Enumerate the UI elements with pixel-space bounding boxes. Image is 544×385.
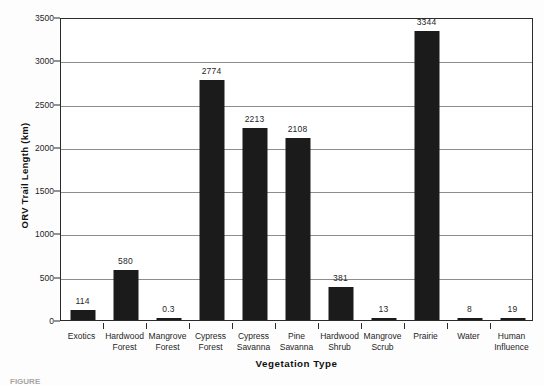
x-axis-title: Vegetation Type xyxy=(60,358,533,369)
x-tick-label: Prairie xyxy=(404,331,447,342)
plot-area: 1145800.3277422132108381133344819 xyxy=(60,18,533,321)
bar-value-label: 3344 xyxy=(417,17,437,27)
bar-group: 8 xyxy=(448,19,491,320)
x-tick-label: HumanInfluence xyxy=(490,331,533,352)
bar-value-label: 114 xyxy=(75,296,89,306)
y-tick-label: 2000 xyxy=(35,143,54,153)
x-tick-label: HardwoodForest xyxy=(103,331,146,352)
figure-caption: FIGURE xyxy=(10,377,40,385)
bar-group: 580 xyxy=(104,19,147,320)
x-tick-mark xyxy=(447,323,448,329)
bar xyxy=(113,270,138,320)
bar-group: 381 xyxy=(319,19,362,320)
x-tick-mark xyxy=(318,323,319,329)
bar-group: 3344 xyxy=(405,19,448,320)
x-tick-label: Exotics xyxy=(60,331,103,342)
y-tick-label: 3000 xyxy=(35,56,54,66)
bar xyxy=(328,287,353,320)
x-tick-mark xyxy=(232,323,233,329)
bar-group: 2774 xyxy=(190,19,233,320)
bar xyxy=(199,80,224,320)
x-tick-mark xyxy=(103,323,104,329)
y-tick-label: 2500 xyxy=(35,100,54,110)
bars-layer: 1145800.3277422132108381133344819 xyxy=(61,19,532,320)
bar-value-label: 2213 xyxy=(245,114,265,124)
x-tick-mark xyxy=(189,323,190,329)
bar-value-label: 13 xyxy=(379,304,389,314)
x-tick-label: MangroveScrub xyxy=(361,331,404,352)
x-tick-mark xyxy=(404,323,405,329)
x-tick-mark xyxy=(146,323,147,329)
y-tick-label: 1500 xyxy=(35,186,54,196)
y-tick-label: 1000 xyxy=(35,229,54,239)
x-tick-label: CypressSavanna xyxy=(232,331,275,352)
bar-value-label: 8 xyxy=(467,304,472,314)
bar-group: 13 xyxy=(362,19,405,320)
bar xyxy=(371,318,396,320)
x-tick-label: HardwoodShrub xyxy=(318,331,361,352)
bar-value-label: 2774 xyxy=(202,66,222,76)
y-tick-label: 3500 xyxy=(35,13,54,23)
bar xyxy=(70,310,95,320)
bar-value-label: 580 xyxy=(118,256,133,266)
bar-value-label: 381 xyxy=(333,273,348,283)
bar xyxy=(457,318,482,320)
bar-group: 0.3 xyxy=(147,19,190,320)
bar-value-label: 0.3 xyxy=(162,304,174,314)
bar-chart: ORV Trail Length (km) 050010001500200025… xyxy=(0,0,544,385)
bar xyxy=(500,318,525,320)
y-axis: 0500100015002000250030003500 xyxy=(0,0,60,385)
bar xyxy=(156,318,181,320)
x-tick-label: Water xyxy=(447,331,490,342)
bar-group: 114 xyxy=(61,19,104,320)
x-tick-label: MangroveForest xyxy=(146,331,189,352)
bar xyxy=(285,138,310,320)
y-tick-label: 500 xyxy=(40,273,54,283)
x-tick-mark xyxy=(361,323,362,329)
bar-group: 2108 xyxy=(276,19,319,320)
x-tick-mark xyxy=(490,323,491,329)
bar xyxy=(414,31,439,320)
bar-group: 2213 xyxy=(233,19,276,320)
bar xyxy=(242,128,267,320)
x-tick-label: CypressForest xyxy=(189,331,232,352)
bar-group: 19 xyxy=(491,19,534,320)
bar-value-label: 19 xyxy=(508,304,518,314)
bar-value-label: 2108 xyxy=(288,124,308,134)
x-tick-mark xyxy=(275,323,276,329)
x-tick-label: PineSavanna xyxy=(275,331,318,352)
